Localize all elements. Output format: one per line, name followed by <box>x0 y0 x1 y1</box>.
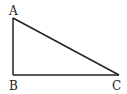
vertex-label-b: B <box>9 79 18 93</box>
side-ac-hypotenuse <box>13 18 119 75</box>
vertex-label-c: C <box>112 79 121 93</box>
vertex-label-a: A <box>8 4 18 18</box>
triangle-diagram: A B C <box>0 0 127 94</box>
